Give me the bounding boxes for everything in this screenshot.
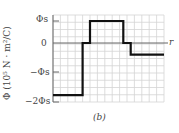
ytick-zero: 0 xyxy=(41,39,47,48)
step-chart xyxy=(0,0,179,133)
x-axis-label: r xyxy=(169,37,173,47)
ytick-neg-2phi-s: −2Φs xyxy=(25,97,50,106)
y-axis-label: Φ (10⁵ N · m²/C) xyxy=(2,26,12,100)
ytick-phi-s: Φs xyxy=(36,15,48,24)
figure-caption: (b) xyxy=(93,112,106,122)
ytick-neg-phi-s: −Φs xyxy=(30,68,50,77)
